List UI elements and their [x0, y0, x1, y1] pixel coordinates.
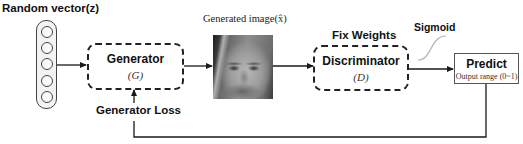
vector-node-icon: [41, 75, 53, 87]
generator-loss-label: Generator Loss: [96, 104, 181, 116]
generator-box: Generator (G): [87, 43, 184, 90]
vector-node-icon: [41, 58, 53, 70]
predict-output-range: Output range (0~1): [456, 72, 518, 81]
discriminator-title: Discriminator: [322, 54, 399, 68]
predict-box: Predict Output range (0~1): [454, 53, 519, 84]
sigmoid-label: Sigmoid: [414, 21, 455, 33]
generator-title: Generator: [107, 52, 164, 66]
sigmoid-curve-icon: [418, 36, 446, 60]
vector-node-icon: [41, 26, 53, 38]
generated-image-label: Generated image(x̂): [203, 13, 287, 24]
random-vector-column: [36, 20, 57, 109]
vector-node-icon: [41, 91, 53, 103]
gan-diagram: Random vector(z) Generator (G) Generator…: [0, 0, 523, 144]
discriminator-box: Discriminator (D): [313, 45, 409, 91]
feedback-loop-line: [134, 83, 486, 137]
fix-weights-label: Fix Weights: [332, 29, 396, 41]
generated-face-image: [213, 35, 273, 99]
predict-title: Predict: [466, 57, 507, 71]
discriminator-symbol: (D): [353, 71, 368, 83]
generator-symbol: (G): [128, 69, 143, 81]
random-vector-label: Random vector(z): [2, 2, 99, 14]
vector-node-icon: [41, 42, 53, 54]
